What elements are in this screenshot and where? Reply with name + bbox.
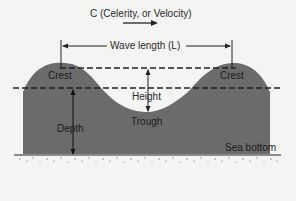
height-down-arrow-icon <box>146 106 151 112</box>
celerity-label: C (Celerity, or Velocity) <box>90 8 192 19</box>
sediment-texture <box>19 157 277 162</box>
trough-label: Trough <box>131 116 162 127</box>
wave-diagram: C (Celerity, or Velocity) Wave length (L… <box>0 0 296 201</box>
wavelength-right-arrow-icon <box>225 44 231 49</box>
height-label: Height <box>132 91 161 102</box>
wavelength-label: Wave length (L) <box>110 40 180 51</box>
celerity-arrow-icon <box>151 20 158 26</box>
crest-right-label: Crest <box>220 70 244 81</box>
depth-label: Depth <box>57 123 84 134</box>
height-up-arrow-icon <box>146 69 151 75</box>
crest-left-label: Crest <box>48 70 72 81</box>
sea-bottom-label: Sea bottom <box>225 142 276 153</box>
wavelength-left-arrow-icon <box>62 44 68 49</box>
